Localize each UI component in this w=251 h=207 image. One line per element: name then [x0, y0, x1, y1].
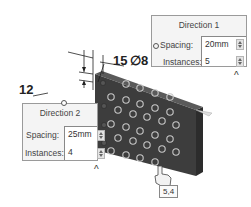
direction2-panel: Direction 2 Spacing: Instances: 25mm 4: [22, 103, 98, 161]
cursor-tooltip: 5,4: [159, 185, 178, 198]
dimension-offset-vertical[interactable]: 12: [19, 82, 33, 97]
direction2-title: Direction 2: [23, 108, 97, 118]
direction2-collapse-icon[interactable]: ^: [94, 164, 99, 175]
direction1-instances-label: Instances:: [163, 57, 202, 67]
block-side-face: [196, 107, 203, 176]
handle-dot-icon[interactable]: [61, 100, 67, 106]
direction2-spacing-label: Spacing:: [26, 130, 59, 140]
direction2-instances-input[interactable]: 4: [68, 145, 97, 160]
graphics-area[interactable]: 12 15 ∅8 Direction 1 Spacing: Instances:…: [0, 0, 251, 207]
direction2-spacing-spinner[interactable]: [97, 130, 105, 141]
handle-dot-icon[interactable]: [153, 43, 159, 49]
direction1-instances-spinner[interactable]: [236, 56, 244, 67]
direction1-spacing-label: Spacing:: [153, 40, 193, 50]
direction2-instances-label: Instances:: [25, 148, 64, 158]
dimension-hole-diameter[interactable]: ∅8: [130, 53, 148, 68]
dimension-offset-horizontal[interactable]: 15: [113, 53, 127, 68]
direction2-spacing-input[interactable]: 25mm: [68, 127, 97, 142]
cursor-hand-icon: [155, 166, 171, 187]
direction2-fields: 25mm 4: [64, 126, 97, 160]
direction1-spacing-spinner[interactable]: [236, 39, 244, 50]
direction1-collapse-icon[interactable]: ^: [234, 70, 239, 81]
direction1-title: Direction 1: [152, 20, 246, 30]
direction2-instances-spinner[interactable]: [97, 148, 105, 159]
direction1-panel: Direction 1 Spacing: Instances: 20mm 5: [151, 15, 247, 67]
